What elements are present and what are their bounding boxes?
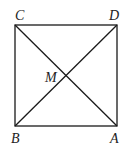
label-B: B: [11, 131, 20, 146]
label-D: D: [108, 8, 119, 23]
geometry-diagram: C D M B A: [0, 0, 128, 153]
label-C: C: [15, 8, 25, 23]
label-M: M: [44, 70, 58, 85]
label-A: A: [109, 131, 119, 146]
